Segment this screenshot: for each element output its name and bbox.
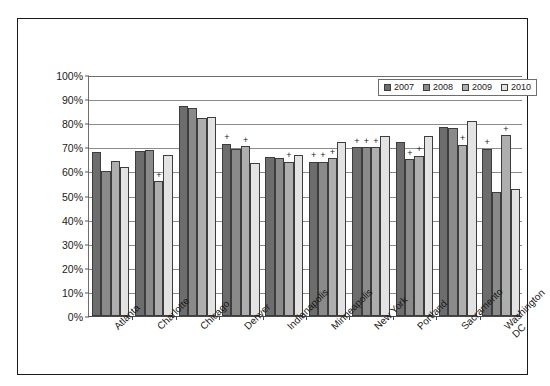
bar <box>294 155 303 316</box>
legend-item: 2009 <box>462 83 492 92</box>
bar-group: +++ <box>306 76 349 316</box>
significance-marker: + <box>373 137 378 146</box>
significance-marker: + <box>485 138 490 147</box>
significance-marker: + <box>354 137 359 146</box>
legend-label: 2008 <box>433 83 453 92</box>
plot-area: 0%10%20%30%40%50%60%70%80%90%100% ++++++… <box>88 76 522 317</box>
bar <box>501 135 510 316</box>
y-tick-label: 50% <box>62 191 83 202</box>
bar <box>371 147 380 316</box>
legend-label: 2010 <box>511 83 531 92</box>
bar-group <box>176 76 219 316</box>
legend-swatch-icon <box>501 84 508 91</box>
bar <box>467 121 476 316</box>
significance-marker: + <box>503 125 508 134</box>
bar-group: + <box>436 76 479 316</box>
legend-item: 2007 <box>384 83 414 92</box>
bar <box>439 127 448 316</box>
bar <box>154 181 163 316</box>
bar-group: ++ <box>393 76 436 316</box>
bar <box>241 146 250 316</box>
bar <box>511 189 520 316</box>
significance-marker: + <box>224 133 229 142</box>
significance-marker: + <box>364 137 369 146</box>
bar <box>352 147 361 316</box>
bar <box>458 145 467 316</box>
significance-marker: + <box>311 151 316 160</box>
bar <box>405 159 414 316</box>
bar <box>135 151 144 316</box>
chart-legend: 2007200820092010 <box>378 79 537 96</box>
bar <box>231 149 240 316</box>
y-tick-label: 70% <box>62 143 83 154</box>
legend-item: 2008 <box>423 83 453 92</box>
legend-label: 2009 <box>472 83 492 92</box>
bar <box>111 161 120 316</box>
bar <box>424 136 433 316</box>
bar <box>275 158 284 316</box>
y-tick-label: 0% <box>68 312 83 323</box>
y-tick-label: 10% <box>62 288 83 299</box>
y-tick-mark <box>85 317 89 318</box>
figure-frame: 0%10%20%30%40%50%60%70%80%90%100% ++++++… <box>17 18 528 375</box>
bar <box>222 144 231 316</box>
bar-group <box>89 76 132 316</box>
y-tick-label: 100% <box>56 71 83 82</box>
y-tick-label: 30% <box>62 239 83 250</box>
bar <box>188 108 197 316</box>
bar <box>380 136 389 316</box>
bar-group: + <box>132 76 175 316</box>
bar <box>265 157 274 316</box>
bar <box>337 142 346 316</box>
legend-item: 2010 <box>501 83 531 92</box>
significance-marker: + <box>407 149 412 158</box>
significance-marker: + <box>330 148 335 157</box>
bar <box>197 118 206 316</box>
bar <box>92 152 101 316</box>
y-tick-label: 20% <box>62 264 83 275</box>
significance-marker: + <box>417 145 422 154</box>
bar-group: ++ <box>219 76 262 316</box>
bar <box>101 171 110 316</box>
bar <box>284 162 293 316</box>
bar <box>448 128 457 316</box>
bar <box>179 106 188 316</box>
y-tick-label: 60% <box>62 167 83 178</box>
bar-group: + <box>263 76 306 316</box>
significance-marker: + <box>320 151 325 160</box>
legend-swatch-icon <box>384 84 391 91</box>
bar <box>120 167 129 316</box>
significance-marker: + <box>243 136 248 145</box>
bar <box>163 155 172 316</box>
bar <box>145 150 154 316</box>
legend-label: 2007 <box>394 83 414 92</box>
bar <box>250 163 259 316</box>
y-tick-label: 90% <box>62 95 83 106</box>
bar <box>207 117 216 316</box>
legend-swatch-icon <box>423 84 430 91</box>
bar-group: ++ <box>480 76 523 316</box>
significance-marker: + <box>460 134 465 143</box>
significance-marker: + <box>156 171 161 180</box>
bar-group: +++ <box>349 76 392 316</box>
y-tick-label: 80% <box>62 119 83 130</box>
significance-marker: + <box>286 151 291 160</box>
bar <box>414 156 423 316</box>
legend-swatch-icon <box>462 84 469 91</box>
bar <box>396 142 405 316</box>
y-tick-label: 40% <box>62 215 83 226</box>
